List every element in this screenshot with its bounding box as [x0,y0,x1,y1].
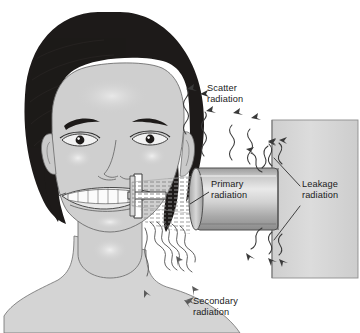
figure-canvas: Scatter radiation Primary radiation Leak… [0,0,360,333]
label-leakage-radiation: Leakage radiation [302,179,338,200]
label-primary-radiation: Primary radiation [211,179,247,200]
radiation-diagram-illustration [0,0,360,333]
label-scatter-radiation: Scatter radiation [207,83,243,104]
label-secondary-radiation: Secondary radiation [193,296,238,317]
